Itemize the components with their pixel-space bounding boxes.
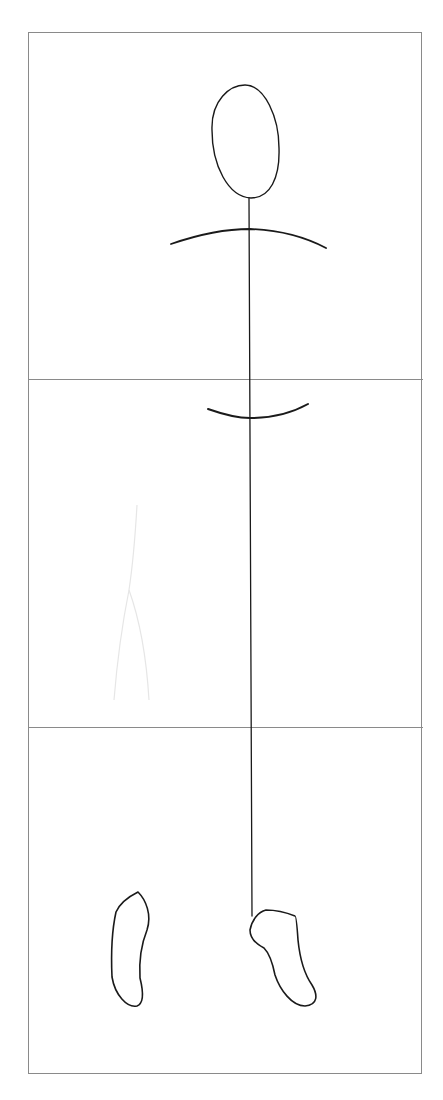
sketch-canvas [0,0,443,1100]
paper [0,0,443,1100]
